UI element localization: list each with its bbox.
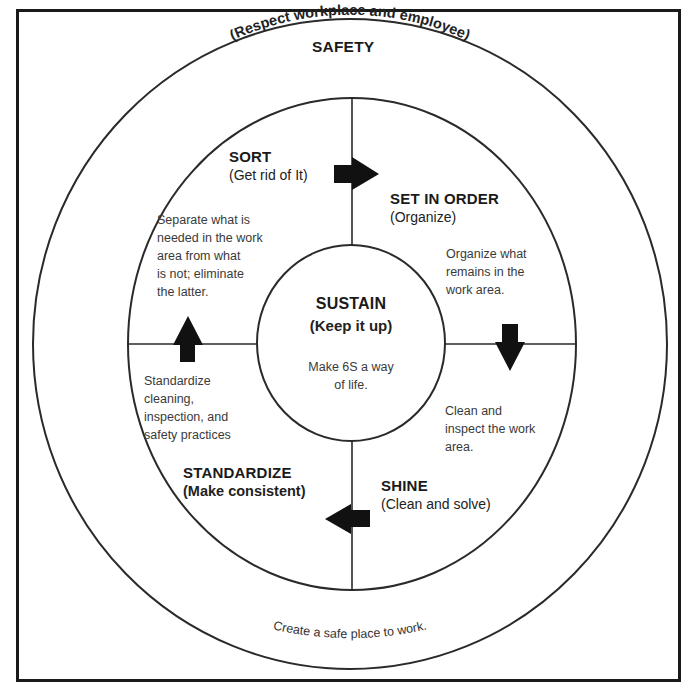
sort-desc-line: needed in the work	[157, 229, 297, 247]
sustain-subtitle: (Keep it up)	[281, 317, 421, 334]
sort-desc-line: area from what	[157, 247, 297, 265]
set-in-order-desc-line: remains in the	[446, 263, 566, 281]
arrow-right-icon	[334, 157, 379, 190]
sustain-desc-line: Make 6S a way	[281, 358, 421, 376]
set-in-order-desc-line: Organize what	[446, 245, 566, 263]
sort-desc-line: the latter.	[157, 283, 297, 301]
sort-desc-line: is not; eliminate	[157, 265, 297, 283]
shine-subtitle: (Clean and solve)	[381, 496, 491, 512]
set-in-order-subtitle: (Organize)	[390, 209, 456, 225]
safety-subtitle: (Respect workplace and employee)	[227, 2, 473, 43]
standardize-subtitle: (Make consistent)	[183, 483, 305, 499]
sustain-desc-line: of life.	[281, 376, 421, 394]
sort-subtitle: (Get rid of It)	[229, 167, 308, 183]
shine-title: SHINE	[381, 477, 428, 494]
shine-desc-line: Clean and	[445, 402, 565, 420]
standardize-description: Standardize cleaning, inspection, and sa…	[144, 372, 264, 444]
standardize-desc-line: cleaning,	[144, 390, 264, 408]
sustain-description: Make 6S a way of life.	[281, 358, 421, 394]
set-in-order-desc-line: work area.	[446, 281, 566, 299]
set-in-order-description: Organize what remains in the work area.	[446, 245, 566, 299]
set-in-order-title: SET IN ORDER	[390, 190, 499, 207]
standardize-title: STANDARDIZE	[183, 464, 292, 481]
shine-desc-line: inspect the work	[445, 420, 565, 438]
6s-diagram-graphics: (Respect workplace and employee) Create …	[0, 0, 692, 689]
sort-desc-line: Separate what is	[157, 211, 297, 229]
arrow-down-icon	[495, 324, 525, 371]
shine-description: Clean and inspect the work area.	[445, 402, 565, 456]
sort-title: SORT	[229, 148, 271, 165]
standardize-desc-line: Standardize	[144, 372, 264, 390]
safety-title: SAFETY	[312, 38, 374, 56]
arrow-up-icon	[173, 316, 203, 362]
standardize-desc-line: safety practices	[144, 426, 264, 444]
standardize-desc-line: inspection, and	[144, 408, 264, 426]
shine-desc-line: area.	[445, 438, 565, 456]
sort-description: Separate what is needed in the work area…	[157, 211, 297, 301]
sustain-title: SUSTAIN	[281, 295, 421, 313]
arrow-left-icon	[325, 504, 370, 534]
safety-description: Create a safe place to work.	[272, 619, 428, 642]
